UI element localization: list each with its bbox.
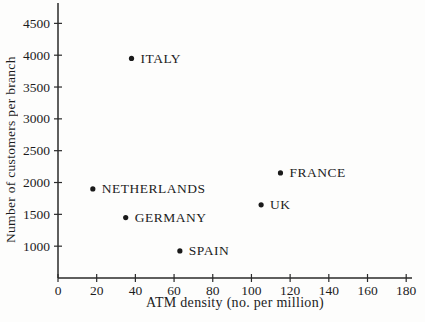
y-tick-label: 2500 — [23, 143, 50, 158]
y-tick-label: 1000 — [23, 239, 50, 254]
data-point-germany — [123, 215, 128, 220]
data-point-uk — [259, 202, 264, 207]
scatter-chart-figure: 0204060801001201401601801000150020002500… — [0, 0, 425, 322]
y-tick-label: 1500 — [23, 207, 50, 222]
point-label-spain: SPAIN — [189, 243, 229, 258]
point-label-italy: ITALY — [141, 51, 182, 66]
y-tick-label: 3500 — [23, 80, 50, 95]
point-label-france: FRANCE — [289, 165, 345, 180]
point-label-netherlands: NETHERLANDS — [102, 181, 206, 196]
data-point-spain — [177, 248, 182, 253]
point-label-uk: UK — [270, 197, 291, 212]
y-tick-label: 4000 — [23, 48, 50, 63]
x-axis-label: ATM density (no. per million) — [58, 295, 412, 311]
data-point-netherlands — [90, 186, 95, 191]
y-tick-label: 4500 — [23, 16, 50, 31]
point-label-germany: GERMANY — [135, 210, 207, 225]
data-point-italy — [129, 56, 134, 61]
data-point-france — [278, 170, 283, 175]
y-axis-label: Number of customers per branch — [3, 28, 19, 272]
chart-canvas: 0204060801001201401601801000150020002500… — [0, 0, 425, 322]
y-tick-label: 2000 — [23, 175, 50, 190]
y-tick-label: 3000 — [23, 111, 50, 126]
